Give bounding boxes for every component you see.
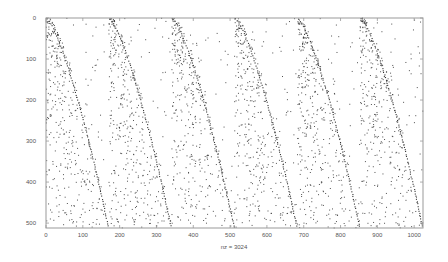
- x-tick-label: 100: [78, 232, 89, 238]
- nonzero-markers: [46, 18, 424, 229]
- plot-frame: [46, 18, 423, 228]
- x-tick-label: 600: [262, 232, 273, 238]
- x-tick-label: 700: [299, 232, 310, 238]
- x-tick-label: 300: [151, 232, 162, 238]
- y-tick-label: 300: [26, 138, 37, 144]
- spy-plot-canvas: 01002003004005006007008009001000 0100200…: [0, 0, 448, 262]
- x-tick-labels: 01002003004005006007008009001000: [44, 232, 421, 238]
- y-tick-labels: 0100200300400500: [26, 15, 37, 226]
- y-ticks: [46, 18, 423, 223]
- x-tick-label: 0: [44, 232, 48, 238]
- x-tick-label: 1000: [407, 232, 421, 238]
- spy-plot-figure: 01002003004005006007008009001000 0100200…: [0, 0, 448, 262]
- x-tick-label: 900: [372, 232, 383, 238]
- y-tick-label: 500: [26, 220, 37, 226]
- y-tick-label: 200: [26, 97, 37, 103]
- x-axis-label: nz = 3024: [221, 244, 248, 250]
- y-tick-label: 100: [26, 56, 37, 62]
- x-tick-label: 500: [225, 232, 236, 238]
- x-tick-label: 800: [336, 232, 347, 238]
- y-tick-label: 400: [26, 179, 37, 185]
- x-tick-label: 400: [188, 232, 199, 238]
- y-tick-label: 0: [33, 15, 37, 21]
- x-tick-label: 200: [115, 232, 126, 238]
